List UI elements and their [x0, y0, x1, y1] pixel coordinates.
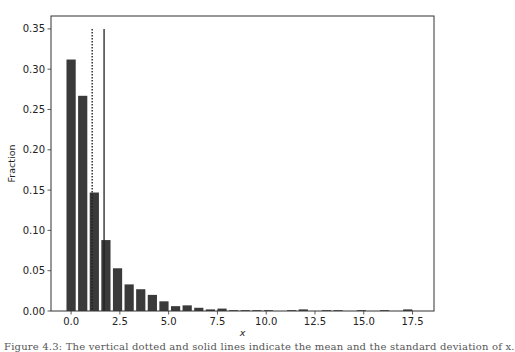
y-tick-label: 0.05 — [23, 265, 45, 276]
y-tick-label: 0.10 — [23, 225, 45, 236]
x-tick-label: 5.0 — [161, 316, 177, 327]
x-tick-label: 12.5 — [304, 316, 326, 327]
histogram-bar — [171, 306, 180, 311]
y-tick-label: 0.00 — [23, 306, 45, 317]
figure-caption: Figure 4.3: The vertical dotted and soli… — [4, 341, 515, 352]
histogram-bar — [90, 193, 99, 311]
histogram-bar — [136, 289, 145, 311]
histogram-bar — [183, 305, 192, 311]
histogram-bar — [148, 295, 157, 311]
x-tick-label: 2.5 — [112, 316, 128, 327]
x-axis-ticks: 0.02.55.07.510.012.515.017.5 — [63, 311, 424, 327]
y-tick-label: 0.30 — [23, 64, 45, 75]
x-tick-label: 10.0 — [255, 316, 277, 327]
y-tick-label: 0.20 — [23, 144, 45, 155]
histogram-bar — [101, 240, 110, 311]
histogram-bar — [159, 301, 168, 311]
y-tick-label: 0.25 — [23, 104, 45, 115]
histogram-bars — [66, 60, 412, 311]
x-tick-label: 7.5 — [209, 316, 225, 327]
y-axis-ticks: 0.000.050.100.150.200.250.300.35 — [23, 23, 51, 316]
y-tick-label: 0.15 — [23, 185, 45, 196]
histogram-bar — [113, 268, 122, 311]
x-axis-label: x — [239, 327, 246, 338]
x-tick-label: 0.0 — [63, 316, 79, 327]
y-axis-label: Fraction — [6, 145, 17, 183]
histogram-bar — [125, 284, 134, 311]
histogram-bar — [78, 96, 87, 311]
y-tick-label: 0.35 — [23, 23, 45, 34]
x-tick-label: 17.5 — [401, 316, 423, 327]
histogram-bar — [66, 60, 75, 311]
x-tick-label: 15.0 — [353, 316, 375, 327]
